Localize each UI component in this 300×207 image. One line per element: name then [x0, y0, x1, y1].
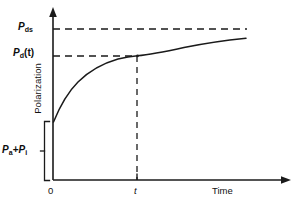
label-pds-subscript: ds	[25, 26, 33, 33]
label-pds: Pds	[18, 22, 33, 33]
x-axis-label: Time	[212, 186, 233, 196]
polarization-curve	[54, 38, 247, 122]
label-offset-second-subscript: i	[25, 149, 27, 156]
plot-canvas	[0, 0, 300, 207]
polarization-vs-time-figure: Pds Pd(t) Pa+Pi Polarization Time 0 t	[0, 0, 300, 207]
label-offset: Pa+Pi	[2, 145, 27, 156]
label-pdt-argument: (t)	[24, 47, 34, 58]
offset-bracket	[41, 122, 50, 181]
y-axis	[49, 7, 57, 180]
intersection-marker	[136, 55, 139, 58]
label-pdt-symbol: P	[13, 47, 20, 58]
x-axis	[53, 176, 291, 184]
label-offset-first-symbol: P	[2, 144, 9, 155]
y-axis-label: Polarization	[33, 63, 43, 114]
label-pdt: Pd(t)	[13, 48, 34, 59]
origin-tick-label: 0	[48, 186, 53, 196]
label-pds-symbol: P	[18, 21, 25, 32]
x-tick-label-t: t	[134, 186, 137, 196]
